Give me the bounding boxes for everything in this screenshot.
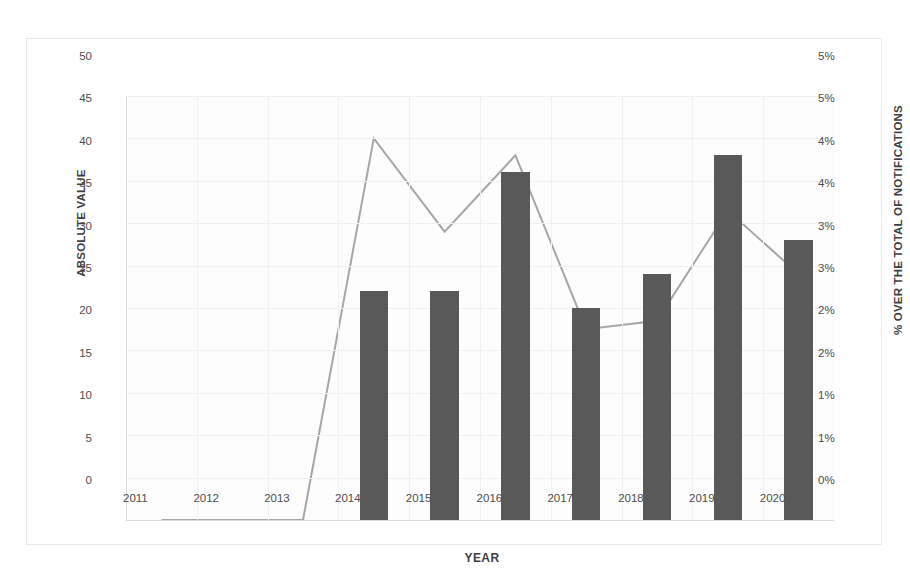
x-axis-tick-label: 2013 (242, 492, 313, 504)
right-axis-tick-label: 1% (818, 432, 858, 444)
left-axis-tick-label: 0 (52, 474, 92, 486)
right-axis-tick-label: 1% (818, 389, 858, 401)
right-axis-tick-label: 5% (818, 92, 858, 104)
right-axis-tick-label: 4% (818, 177, 858, 189)
gridline-vertical (409, 96, 410, 520)
left-axis-tick-label: 40 (52, 135, 92, 147)
gridline-vertical (480, 96, 481, 520)
left-axis-tick-label: 20 (52, 304, 92, 316)
bar (360, 291, 388, 520)
left-axis-tick-label: 15 (52, 347, 92, 359)
left-axis-tick-label: 30 (52, 220, 92, 232)
right-axis-tick-label: 5% (818, 50, 858, 62)
bar (714, 155, 742, 520)
left-axis-tick-label: 25 (52, 262, 92, 274)
x-axis-tick-label: 2016 (454, 492, 525, 504)
bar (430, 291, 458, 520)
plot-area (126, 96, 834, 520)
x-axis-title: YEAR (27, 551, 910, 565)
x-axis-tick-label: 2017 (525, 492, 596, 504)
right-axis-tick-label: 0% (818, 474, 858, 486)
x-axis-tick-label: 2019 (666, 492, 737, 504)
right-axis-tick-label: 3% (818, 262, 858, 274)
gridline-vertical (338, 96, 339, 520)
left-axis-tick-label: 10 (52, 389, 92, 401)
x-axis-tick-label: 2014 (312, 492, 383, 504)
right-axis-tick-label: 2% (818, 347, 858, 359)
gridline-vertical (622, 96, 623, 520)
x-axis-tick-label: 2011 (100, 492, 171, 504)
right-axis-title: % OVER THE TOTAL OF NOTIFICATIONS (892, 75, 904, 365)
left-axis-tick-label: 5 (52, 432, 92, 444)
gridline-vertical (692, 96, 693, 520)
x-axis-tick-label: 2012 (171, 492, 242, 504)
bar (784, 240, 812, 520)
gridline-vertical (763, 96, 764, 520)
left-axis-line (126, 96, 127, 521)
bar (501, 172, 529, 520)
left-axis-tick-label: 50 (52, 50, 92, 62)
category-axis-line (126, 520, 834, 521)
x-axis-tick-label: 2020 (737, 492, 808, 504)
x-axis-tick-label: 2018 (596, 492, 667, 504)
x-axis-tick-label: 2015 (383, 492, 454, 504)
right-axis-tick-label: 3% (818, 220, 858, 232)
right-axis-tick-label: 4% (818, 135, 858, 147)
chart-frame: ABSOLUTE VALUE % OVER THE TOTAL OF NOTIF… (26, 38, 882, 545)
right-axis-tick-label: 2% (818, 304, 858, 316)
left-axis-tick-label: 45 (52, 92, 92, 104)
left-axis-tick-label: 35 (52, 177, 92, 189)
gridline-vertical (197, 96, 198, 520)
bar (643, 274, 671, 520)
bar (572, 308, 600, 520)
gridline-vertical (268, 96, 269, 520)
gridline-vertical (551, 96, 552, 520)
